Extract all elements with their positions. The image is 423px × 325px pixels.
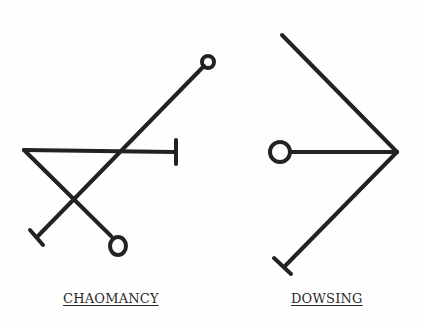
chaomancy-top-circle: [202, 56, 214, 68]
dowsing-circle: [270, 142, 290, 162]
chaomancy-sigil: [24, 56, 214, 255]
chaomancy-label: CHAOMANCY: [63, 291, 159, 306]
sigil-diagram: CHAOMANCY DOWSING: [0, 0, 423, 325]
dowsing-lower-diagonal: [286, 152, 397, 265]
sigil-drawing: [0, 0, 423, 325]
dowsing-label: DOWSING: [291, 291, 363, 306]
chaomancy-bottom-circle: [110, 237, 126, 255]
dowsing-upper-diagonal: [282, 35, 397, 152]
chaomancy-horizontal-line: [24, 150, 175, 152]
chaomancy-down-diagonal: [24, 150, 111, 236]
dowsing-sigil: [270, 35, 397, 274]
